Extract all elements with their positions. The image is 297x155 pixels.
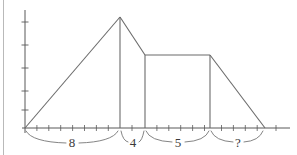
segment-fall-to-plateau — [120, 17, 145, 55]
y-axis-group — [22, 10, 29, 133]
segment-label-5: 5 — [175, 135, 182, 150]
segment-rise — [25, 17, 120, 128]
graph-outline — [25, 17, 265, 128]
segment-fall-to-zero — [210, 55, 265, 128]
figure-container: 8 4 5 ? — [0, 0, 297, 155]
brace-group — [26, 131, 263, 143]
segment-label-question: ? — [235, 135, 241, 150]
x-axis-group — [22, 125, 290, 131]
velocity-time-graph: 8 4 5 ? — [0, 0, 297, 155]
segment-label-8: 8 — [69, 135, 76, 150]
segment-label-4: 4 — [130, 135, 137, 150]
